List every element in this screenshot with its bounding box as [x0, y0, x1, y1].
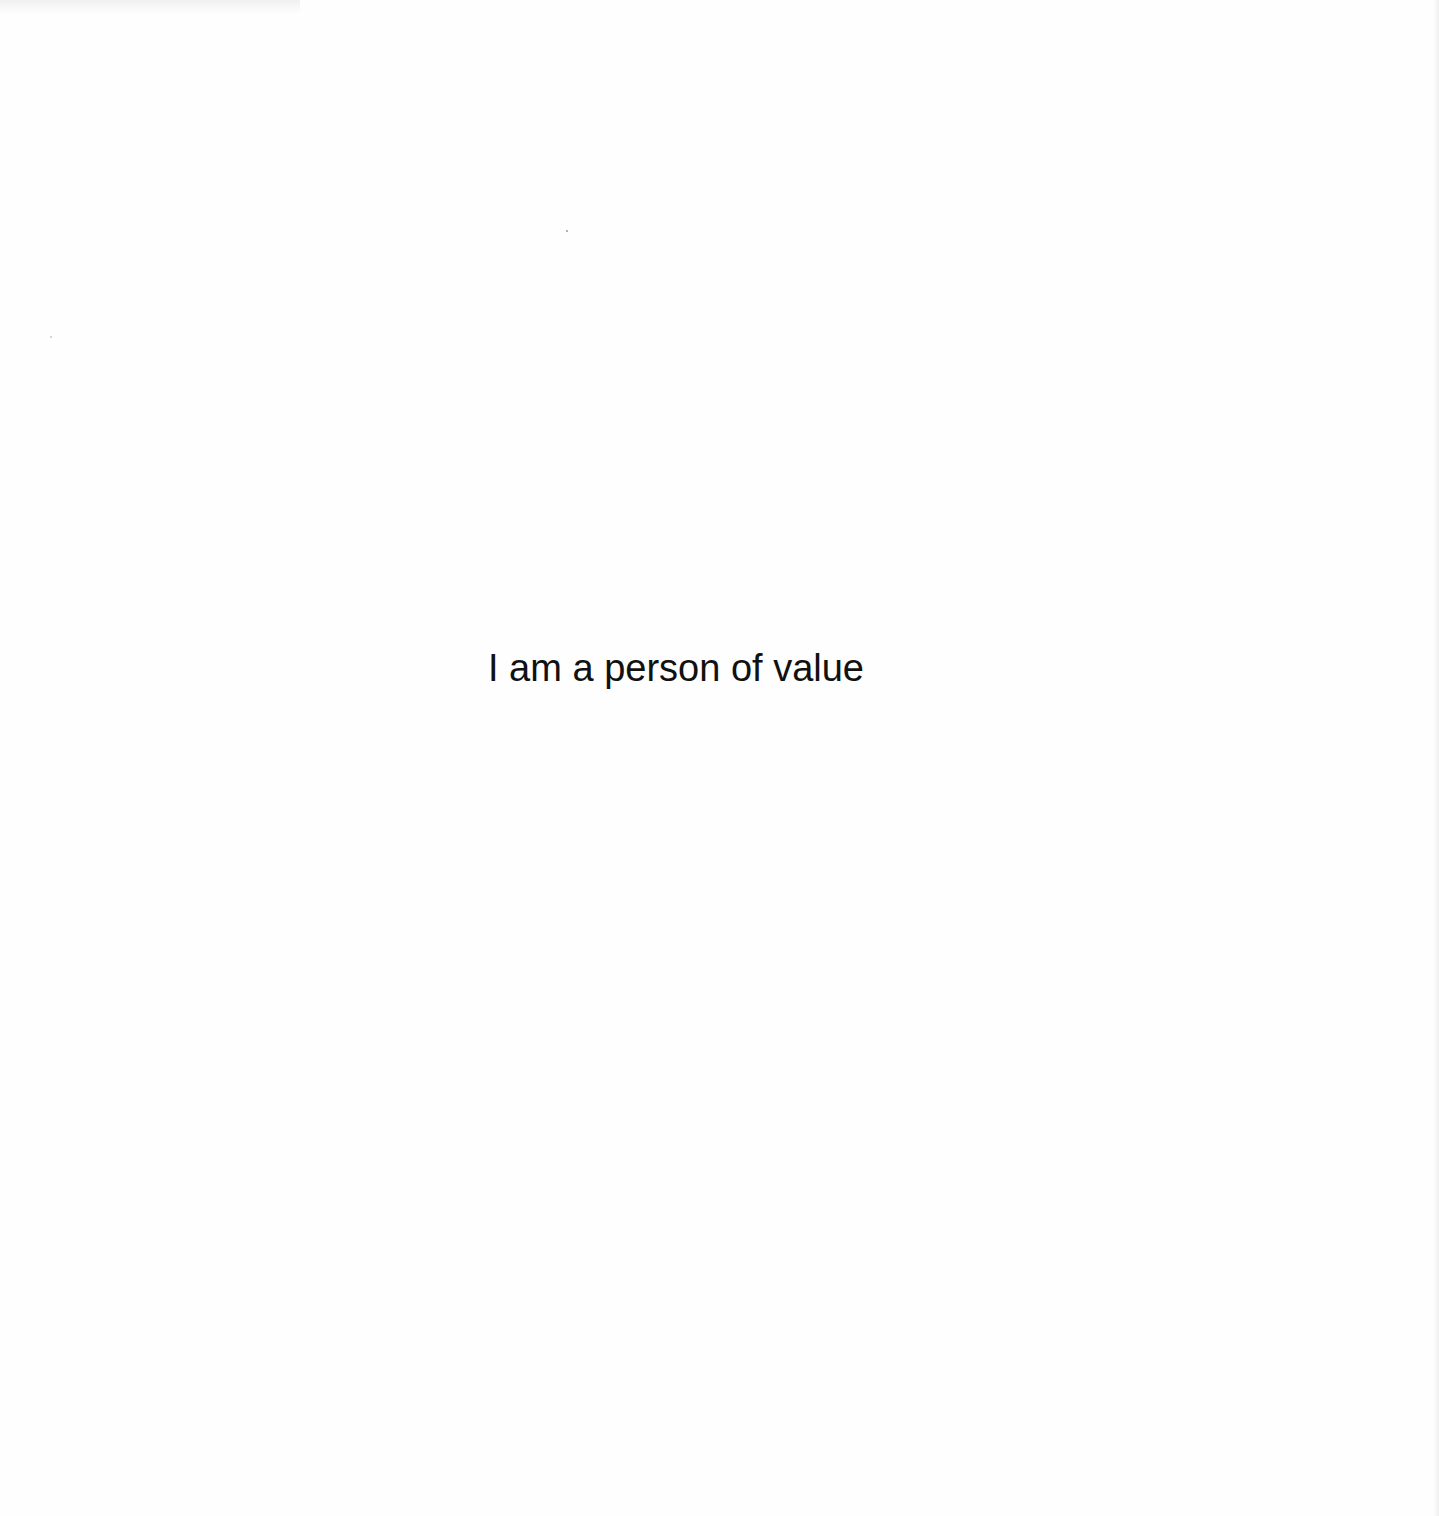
scan-speck	[50, 336, 52, 338]
affirmation-text: I am a person of value	[488, 646, 864, 692]
scan-speck	[566, 230, 568, 232]
scan-artifact-top	[0, 0, 300, 14]
scan-artifact-right-edge	[1433, 0, 1439, 1516]
document-page: I am a person of value	[0, 0, 1439, 1516]
